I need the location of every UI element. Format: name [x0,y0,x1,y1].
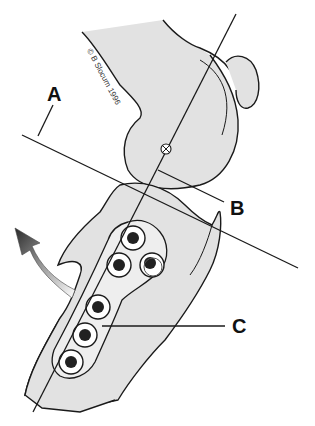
screw-1 [121,226,145,250]
label-b: B [230,198,244,218]
screw-3 [140,253,164,277]
femur-bone [82,20,259,189]
center-of-rotation-icon [161,144,171,154]
leader-line-a [38,105,53,136]
label-a: A [47,84,61,104]
screw-2 [107,253,131,277]
bone-plate-diagram [0,0,315,426]
diagram-canvas: A B C © B Slocum 1996 [0,0,315,426]
screw-4 [86,295,110,319]
label-c: C [232,316,246,336]
